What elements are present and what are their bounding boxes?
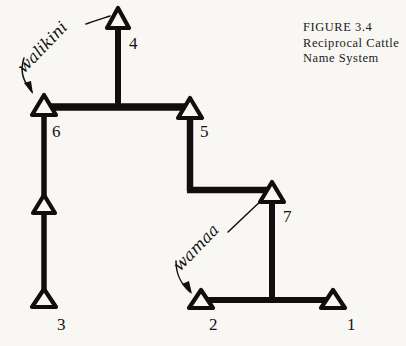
node-label-7: 7	[283, 207, 292, 226]
figure-caption: FIGURE 3.4 Reciprocal Cattle Name System	[303, 20, 403, 67]
node-marker-3[interactable]	[32, 289, 56, 307]
node-label-5: 5	[200, 122, 209, 141]
node-marker-1[interactable]	[321, 290, 345, 308]
node-labels: 4 6 5 7 3 2 1	[52, 34, 356, 334]
wamaa-arrowhead	[182, 281, 192, 294]
annotation-walikini: walikini	[13, 16, 110, 94]
wamaa-label: wamaa	[169, 220, 223, 275]
annotation-wamaa: wamaa	[169, 201, 261, 294]
caption-line-3: Name System	[303, 51, 403, 67]
walikini-leader-to-node4	[86, 16, 110, 24]
node-marker-2[interactable]	[189, 290, 213, 308]
figure-page: 4 6 5 7 3 2 1 walikini wamaa F	[0, 0, 406, 346]
node-label-6: 6	[52, 122, 61, 141]
node-label-2: 2	[209, 315, 218, 334]
walikini-arrowhead	[24, 81, 33, 94]
node-label-4: 4	[129, 34, 138, 53]
node-marker-unlabeled[interactable]	[33, 195, 55, 213]
caption-line-1: FIGURE 3.4	[303, 20, 403, 36]
node-marker-4[interactable]	[107, 8, 129, 28]
walikini-label: walikini	[13, 18, 71, 77]
node-marker-5[interactable]	[178, 98, 202, 118]
node-label-3: 3	[57, 315, 66, 334]
node-marker-7[interactable]	[260, 182, 284, 202]
wamaa-leader-to-node7	[228, 201, 261, 232]
node-marker-6[interactable]	[32, 95, 56, 115]
caption-line-2: Reciprocal Cattle	[303, 36, 403, 52]
node-label-1: 1	[347, 315, 356, 334]
